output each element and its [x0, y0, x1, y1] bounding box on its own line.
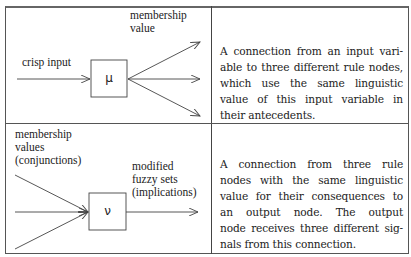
modified-fuzzy-sets-label-line1: modified	[132, 160, 174, 173]
row2-description-line: an output node. The output	[220, 204, 403, 220]
row2-description-line: value for their consequences to	[220, 188, 403, 204]
row1-description-line: their antecedents.	[220, 107, 403, 123]
row1-description: A connection from an input vari- able to…	[220, 43, 403, 123]
row1-description-line: A connection from an input vari-	[220, 43, 403, 59]
membership-values-label-line3: (conjunctions)	[15, 154, 81, 167]
membership-value-label-line1: membership	[130, 9, 187, 22]
row1-description-line: which use the same linguistic	[220, 75, 403, 91]
nu-node-symbol: ν	[89, 204, 126, 218]
membership-value-label-line2: value	[130, 22, 155, 35]
membership-values-label-line2: values	[15, 141, 44, 154]
mu-node-symbol: μ	[91, 71, 127, 85]
row2-description: A connection from three rule nodes with …	[220, 156, 403, 252]
row2-description-line: A connection from three rule	[220, 156, 403, 172]
modified-fuzzy-sets-label-line3: (implications)	[132, 186, 197, 199]
row1-description-line: able to three different rule nodes,	[220, 59, 403, 75]
crisp-input-label: crisp input	[22, 56, 71, 69]
row2-description-line: nodes with the same linguistic	[220, 172, 403, 188]
modified-fuzzy-sets-label-line2: fuzzy sets	[132, 173, 178, 186]
membership-values-label-line1: membership	[15, 128, 72, 141]
row1-description-line: value of this input variable in	[220, 91, 403, 107]
row2-description-line: nals from this connection.	[220, 236, 403, 252]
row2-description-line: node receives three different sig-	[220, 220, 403, 236]
